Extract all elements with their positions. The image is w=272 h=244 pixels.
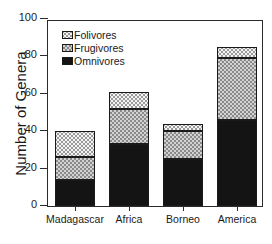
stacked-bar-chart-figure: Number of Genera 020406080100 Madagascar… bbox=[0, 0, 272, 244]
legend-swatch-omnivores-icon bbox=[62, 57, 73, 65]
chart-legend: Folivores Frugivores Omnivores bbox=[62, 30, 125, 66]
y-tick-label-40: 40 bbox=[25, 123, 37, 135]
legend-swatch-frugivores-icon bbox=[62, 44, 73, 52]
bar-segment-america-frugivores[interactable] bbox=[217, 58, 257, 120]
legend-label-frugivores: Frugivores bbox=[73, 43, 124, 53]
y-tick-40: 40 bbox=[40, 130, 48, 131]
x-tick-africa bbox=[129, 206, 130, 211]
x-axis-label-madagascar: Madagascar bbox=[46, 213, 104, 225]
legend-label-omnivores: Omnivores bbox=[73, 56, 125, 66]
x-tick-borneo bbox=[183, 206, 184, 211]
x-axis-label-america: America bbox=[218, 213, 257, 225]
bar-group-america[interactable] bbox=[217, 19, 257, 206]
bar-segment-america-omnivores[interactable] bbox=[217, 120, 257, 206]
y-tick-label-60: 60 bbox=[25, 86, 37, 98]
legend-item-omnivores: Omnivores bbox=[62, 56, 125, 66]
y-tick-80: 80 bbox=[40, 55, 48, 56]
bar-segment-africa-omnivores[interactable] bbox=[109, 144, 149, 206]
x-axis-label-borneo: Borneo bbox=[166, 213, 200, 225]
x-tick-america bbox=[237, 206, 238, 211]
bar-segment-africa-frugivores[interactable] bbox=[109, 109, 149, 145]
bar-segment-madagascar-omnivores[interactable] bbox=[55, 180, 95, 206]
bar-segment-america-folivores[interactable] bbox=[217, 47, 257, 58]
x-axis-label-africa: Africa bbox=[116, 213, 143, 225]
y-tick-100: 100 bbox=[40, 18, 48, 19]
bar-segment-borneo-folivores[interactable] bbox=[163, 124, 203, 131]
y-tick-label-20: 20 bbox=[25, 161, 37, 173]
y-tick-0: 0 bbox=[40, 205, 48, 206]
bar-segment-madagascar-folivores[interactable] bbox=[55, 131, 95, 157]
legend-item-folivores: Folivores bbox=[62, 30, 125, 40]
y-tick-60: 60 bbox=[40, 93, 48, 94]
y-tick-20: 20 bbox=[40, 168, 48, 169]
y-tick-label-0: 0 bbox=[31, 198, 37, 210]
bar-segment-africa-folivores[interactable] bbox=[109, 92, 149, 109]
y-tick-label-100: 100 bbox=[19, 11, 37, 23]
legend-label-folivores: Folivores bbox=[73, 30, 117, 40]
bar-segment-madagascar-frugivores[interactable] bbox=[55, 157, 95, 179]
bar-segment-borneo-frugivores[interactable] bbox=[163, 131, 203, 159]
bar-segment-borneo-omnivores[interactable] bbox=[163, 159, 203, 206]
bar-group-borneo[interactable] bbox=[163, 19, 203, 206]
y-axis-title: Number of Genera bbox=[12, 19, 29, 209]
legend-swatch-folivores-icon bbox=[62, 31, 73, 39]
y-tick-label-80: 80 bbox=[25, 48, 37, 60]
legend-item-frugivores: Frugivores bbox=[62, 43, 125, 53]
x-tick-madagascar bbox=[75, 206, 76, 211]
